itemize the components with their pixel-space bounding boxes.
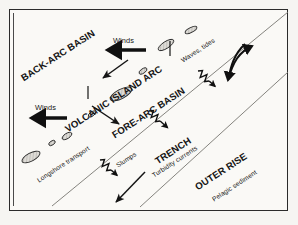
boundary-trench-outer-rise bbox=[140, 72, 288, 207]
turbidity-arrow-shaft bbox=[209, 81, 215, 86]
deep-basin-arrow bbox=[116, 172, 145, 202]
island-shape bbox=[20, 149, 41, 165]
island-shape bbox=[48, 139, 56, 146]
process-label-winds-lower: Winds bbox=[35, 104, 56, 111]
process-label-winds-upper: Winds bbox=[113, 37, 134, 44]
island-shape bbox=[157, 37, 176, 53]
figure-root: BACK-ARC BASIN VOLCANIC ISLAND ARC FORE-… bbox=[0, 0, 298, 225]
turbidity-arrow-shaft bbox=[160, 121, 167, 128]
arc-to-backarc-arrow bbox=[103, 60, 128, 78]
turbidity-arrow-shaft bbox=[111, 170, 117, 175]
diagram-stage: BACK-ARC BASIN VOLCANIC ISLAND ARC FORE-… bbox=[0, 0, 298, 225]
subduction-flow-curve bbox=[228, 44, 252, 80]
island-shape bbox=[184, 25, 198, 35]
